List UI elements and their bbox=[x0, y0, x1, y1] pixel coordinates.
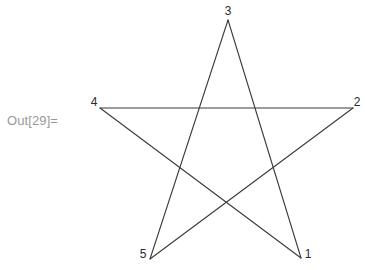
star-graphic-container[interactable]: 12345 bbox=[0, 0, 365, 270]
pentagram-figure: 12345 bbox=[0, 0, 365, 270]
vertex-label-2: 2 bbox=[354, 95, 361, 109]
vertex-label-1: 1 bbox=[305, 247, 312, 261]
star-edge-5-2 bbox=[150, 108, 353, 259]
star-edges-group bbox=[100, 20, 353, 259]
notebook-output-cell: Out[29]= 12345 bbox=[0, 0, 365, 270]
star-edge-3-5 bbox=[150, 20, 228, 259]
vertex-label-4: 4 bbox=[91, 95, 98, 109]
star-edge-4-1 bbox=[100, 108, 301, 258]
vertex-label-5: 5 bbox=[140, 247, 147, 261]
star-edge-1-3 bbox=[228, 20, 301, 258]
vertex-label-3: 3 bbox=[225, 4, 232, 18]
